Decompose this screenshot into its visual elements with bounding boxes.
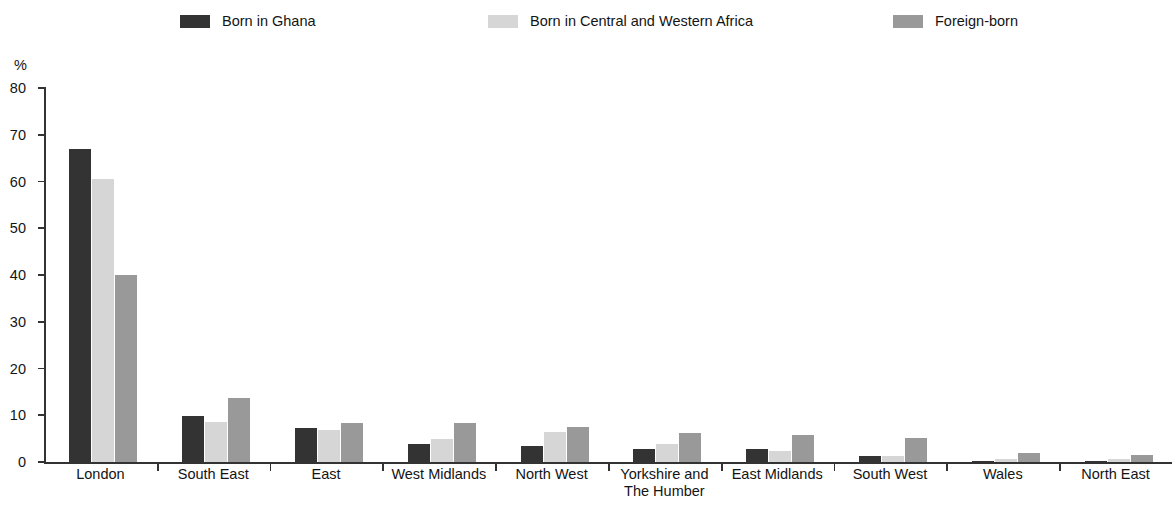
bar bbox=[408, 444, 430, 462]
y-axis-tick-label: 70 bbox=[0, 128, 26, 143]
plot-area: 01020304050607080 bbox=[44, 88, 1172, 463]
chart-legend: Born in Ghana Born in Central and Wester… bbox=[0, 0, 1172, 45]
bar bbox=[1085, 461, 1107, 462]
bar bbox=[544, 432, 566, 462]
bar bbox=[905, 438, 927, 462]
legend-item-born-in-ghana: Born in Ghana bbox=[180, 11, 316, 31]
y-axis-unit-label: % bbox=[14, 58, 27, 73]
legend-label-born-in-central-and-western-africa: Born in Central and Western Africa bbox=[530, 14, 753, 29]
y-axis-tick bbox=[38, 321, 46, 323]
bar bbox=[521, 446, 543, 462]
y-axis-tick-label: 20 bbox=[0, 362, 26, 377]
y-axis-tick bbox=[38, 368, 46, 370]
y-axis-tick bbox=[38, 414, 46, 416]
bar bbox=[995, 459, 1017, 462]
bar bbox=[656, 444, 678, 462]
y-axis-tick bbox=[38, 87, 46, 89]
y-axis-tick-label: 60 bbox=[0, 175, 26, 190]
bar bbox=[69, 149, 91, 462]
x-axis-category-labels: LondonSouth EastEastWest MidlandsNorth W… bbox=[44, 466, 1172, 512]
bar bbox=[228, 398, 250, 462]
y-axis-tick bbox=[38, 274, 46, 276]
bar bbox=[1018, 453, 1040, 462]
legend-label-born-in-ghana: Born in Ghana bbox=[222, 14, 316, 29]
legend-swatch-foreign-born bbox=[893, 15, 923, 28]
bar bbox=[792, 435, 814, 462]
bar bbox=[633, 449, 655, 462]
bar bbox=[295, 428, 317, 462]
bar bbox=[431, 439, 453, 462]
y-axis-tick bbox=[38, 134, 46, 136]
bar bbox=[882, 456, 904, 462]
y-axis-tick-label: 10 bbox=[0, 408, 26, 423]
y-axis-tick-label: 0 bbox=[0, 455, 26, 470]
bar bbox=[454, 423, 476, 462]
bar bbox=[182, 416, 204, 462]
legend-swatch-born-in-ghana bbox=[180, 15, 210, 28]
legend-item-foreign-born: Foreign-born bbox=[893, 11, 1018, 31]
bar bbox=[859, 456, 881, 462]
bar bbox=[679, 433, 701, 462]
bar bbox=[1108, 459, 1130, 462]
x-axis-category-label: North East bbox=[1045, 466, 1172, 483]
bar bbox=[1131, 455, 1153, 462]
legend-label-foreign-born: Foreign-born bbox=[935, 14, 1018, 29]
y-axis-tick-label: 80 bbox=[0, 81, 26, 96]
bar bbox=[92, 179, 114, 462]
y-axis-tick bbox=[38, 181, 46, 183]
bar-chart: Born in Ghana Born in Central and Wester… bbox=[0, 0, 1172, 512]
y-axis-tick bbox=[38, 461, 46, 463]
y-axis-tick-label: 30 bbox=[0, 315, 26, 330]
bar bbox=[341, 423, 363, 462]
bar bbox=[318, 430, 340, 462]
bar bbox=[567, 427, 589, 462]
bar bbox=[115, 275, 137, 462]
y-axis-tick-label: 40 bbox=[0, 268, 26, 283]
legend-swatch-born-in-central-and-western-africa bbox=[488, 15, 518, 28]
bar bbox=[769, 451, 791, 462]
bar bbox=[972, 461, 994, 462]
y-axis-tick-label: 50 bbox=[0, 221, 26, 236]
y-axis-tick bbox=[38, 227, 46, 229]
bar bbox=[746, 449, 768, 462]
bar bbox=[205, 422, 227, 462]
legend-item-born-in-central-and-western-africa: Born in Central and Western Africa bbox=[488, 11, 753, 31]
